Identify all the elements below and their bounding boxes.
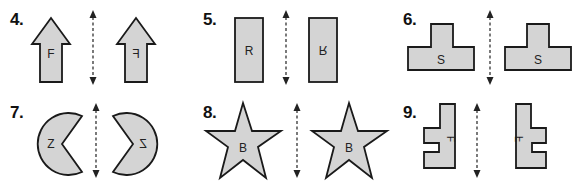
letter-original: S xyxy=(437,53,445,67)
letter-original: F xyxy=(47,47,54,61)
reflection-line xyxy=(487,10,494,85)
problem-9-figure: F F xyxy=(424,103,546,178)
problem-5-figure: R R xyxy=(235,10,337,85)
reflection-line xyxy=(294,103,301,178)
pacman-reflected xyxy=(113,113,157,175)
problem-7-figure: Z Z xyxy=(38,103,158,178)
pacman-original xyxy=(38,113,82,175)
figures-canvas: F F R R S S Z Z B B F xyxy=(0,0,582,187)
letter-reflected: F xyxy=(514,136,525,142)
letter-reflected: R xyxy=(319,43,328,57)
letter-reflected: Z xyxy=(139,137,146,151)
problem-8-figure: B B xyxy=(206,103,387,178)
reflection-line xyxy=(474,103,481,178)
reflection-line xyxy=(93,103,100,178)
letter-original: Z xyxy=(47,137,54,151)
letter-reflected: F xyxy=(132,47,139,61)
problem-4-figure: F F xyxy=(32,10,155,85)
letter-reflected: B xyxy=(345,141,353,155)
problem-6-figure: S S xyxy=(408,10,571,85)
reflection-line xyxy=(283,10,290,85)
letter-original: R xyxy=(245,44,254,58)
letter-original: F xyxy=(445,136,456,142)
letter-original: B xyxy=(239,141,247,155)
letter-reflected: S xyxy=(534,53,542,67)
reflection-line xyxy=(90,10,97,85)
